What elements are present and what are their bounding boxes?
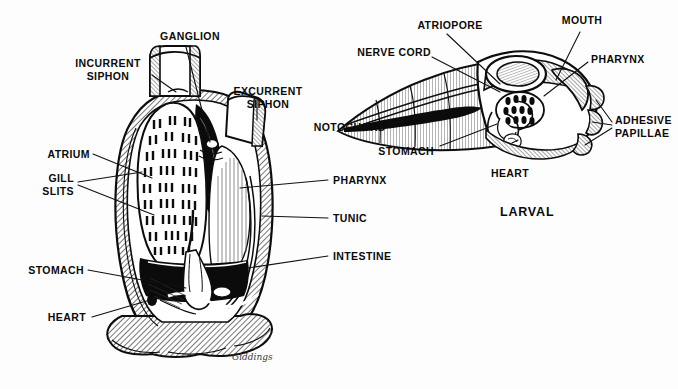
larval-tunicate-illustration <box>338 51 604 159</box>
label-atrium: ATRIUM <box>8 148 90 161</box>
figure-canvas: INCURRENT SIPHON GANGLION EXCURRENT SIPH… <box>0 0 678 389</box>
label-adult-pharynx: PHARYNX <box>333 174 423 187</box>
label-larval-stomach: STOMACH <box>346 145 434 158</box>
label-stomach: STOMACH <box>2 264 84 277</box>
label-ganglion: GANGLION <box>145 30 235 43</box>
label-gill-slits: GILL SLITS <box>8 172 74 197</box>
label-tunic: TUNIC <box>333 212 413 225</box>
label-nerve-cord: NERVE CORD <box>339 46 431 59</box>
label-intestine: INTESTINE <box>333 250 423 263</box>
label-adhesive-papillae: ADHESIVE PAPILLAE <box>615 114 678 139</box>
artist-signature: Giddings <box>232 352 273 362</box>
label-excurrent-siphon: EXCURRENT SIPHON <box>221 85 315 110</box>
label-mouth: MOUTH <box>551 14 613 27</box>
larval-caption: LARVAL <box>500 205 554 219</box>
larval-atriopore-shape <box>486 56 546 92</box>
label-larval-heart: HEART <box>479 167 541 180</box>
label-incurrent-siphon: INCURRENT SIPHON <box>60 57 156 82</box>
label-atriopore: ATRIOPORE <box>404 19 496 32</box>
label-heart: HEART <box>22 311 86 324</box>
label-notochord: NOTOCHORD <box>296 121 386 134</box>
label-larval-pharynx: PHARYNX <box>591 53 669 66</box>
